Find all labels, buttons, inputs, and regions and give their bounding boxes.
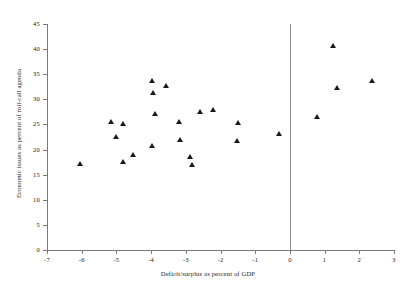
y-axis-line bbox=[47, 24, 48, 250]
x-tick bbox=[359, 250, 360, 254]
x-tick bbox=[325, 250, 326, 254]
x-tick-label: 2 bbox=[347, 256, 371, 264]
data-point bbox=[163, 83, 169, 88]
x-tick bbox=[255, 250, 256, 254]
x-tick-label: -3 bbox=[174, 256, 198, 264]
y-tick bbox=[43, 150, 47, 151]
y-tick bbox=[43, 124, 47, 125]
data-point bbox=[152, 111, 158, 116]
x-tick bbox=[186, 250, 187, 254]
data-point bbox=[120, 159, 126, 164]
y-tick-label: 35 bbox=[22, 70, 40, 78]
y-tick-label: 5 bbox=[22, 221, 40, 229]
x-tick-label: -1 bbox=[243, 256, 267, 264]
x-tick-label: -2 bbox=[209, 256, 233, 264]
y-tick bbox=[43, 24, 47, 25]
x-tick bbox=[394, 250, 395, 254]
x-tick-label: -5 bbox=[104, 256, 128, 264]
y-tick bbox=[43, 225, 47, 226]
x-tick-label: 0 bbox=[278, 256, 302, 264]
x-axis-title: Deficit/surplus as percent of GDP bbox=[0, 270, 416, 277]
data-point bbox=[334, 85, 340, 90]
y-tick-label: 45 bbox=[22, 20, 40, 28]
y-tick bbox=[43, 200, 47, 201]
x-tick-label: -4 bbox=[139, 256, 163, 264]
scatter-chart: -7-6-5-4-3-2-10123 051015202530354045 De… bbox=[0, 0, 416, 295]
data-point bbox=[235, 120, 241, 125]
data-point bbox=[210, 107, 216, 112]
y-tick-label: 15 bbox=[22, 171, 40, 179]
data-point bbox=[276, 131, 282, 136]
data-point bbox=[176, 119, 182, 124]
data-point bbox=[149, 143, 155, 148]
y-tick-label: 0 bbox=[22, 246, 40, 254]
zero-reference-line bbox=[290, 24, 291, 250]
data-point bbox=[108, 119, 114, 124]
x-tick bbox=[116, 250, 117, 254]
y-tick bbox=[43, 99, 47, 100]
x-tick bbox=[47, 250, 48, 254]
y-tick bbox=[43, 74, 47, 75]
y-tick-label: 10 bbox=[22, 196, 40, 204]
data-point bbox=[187, 154, 193, 159]
y-tick-label: 25 bbox=[22, 120, 40, 128]
data-point bbox=[77, 161, 83, 166]
data-point bbox=[234, 138, 240, 143]
y-tick-label: 20 bbox=[22, 146, 40, 154]
data-point bbox=[113, 134, 119, 139]
data-point bbox=[314, 114, 320, 119]
y-tick-label: 40 bbox=[22, 45, 40, 53]
data-point bbox=[130, 152, 136, 157]
x-tick bbox=[290, 250, 291, 254]
x-tick bbox=[82, 250, 83, 254]
y-tick-label: 30 bbox=[22, 95, 40, 103]
data-point bbox=[189, 162, 195, 167]
y-tick bbox=[43, 49, 47, 50]
plot-area bbox=[47, 24, 394, 250]
x-tick-label: -7 bbox=[35, 256, 59, 264]
x-tick bbox=[221, 250, 222, 254]
data-point bbox=[369, 78, 375, 83]
data-point bbox=[149, 78, 155, 83]
x-tick-label: 3 bbox=[382, 256, 406, 264]
y-tick bbox=[43, 250, 47, 251]
data-point bbox=[150, 90, 156, 95]
y-axis-title: Economic issues as percent of roll-call … bbox=[15, 54, 22, 214]
x-tick bbox=[151, 250, 152, 254]
x-tick-label: -6 bbox=[70, 256, 94, 264]
data-point bbox=[120, 121, 126, 126]
x-tick-label: 1 bbox=[313, 256, 337, 264]
data-point bbox=[177, 137, 183, 142]
data-point bbox=[197, 109, 203, 114]
y-tick bbox=[43, 175, 47, 176]
data-point bbox=[330, 43, 336, 48]
